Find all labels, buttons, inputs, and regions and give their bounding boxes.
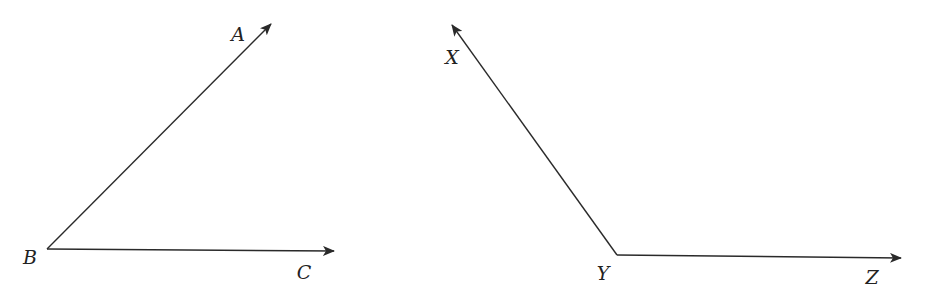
ray-ba [47, 24, 271, 249]
angle-xyz [452, 25, 901, 258]
point-label-a: A [231, 25, 245, 44]
point-label-b: B [23, 248, 37, 267]
ray-yz [617, 255, 901, 258]
point-label-y: Y [597, 264, 610, 283]
ray-yx [452, 25, 617, 255]
point-label-x: X [445, 48, 459, 67]
point-label-z: Z [865, 268, 878, 287]
ray-bc [47, 249, 334, 251]
point-label-c: C [297, 263, 312, 282]
angles-diagram [0, 0, 926, 301]
angle-abc [47, 24, 334, 251]
